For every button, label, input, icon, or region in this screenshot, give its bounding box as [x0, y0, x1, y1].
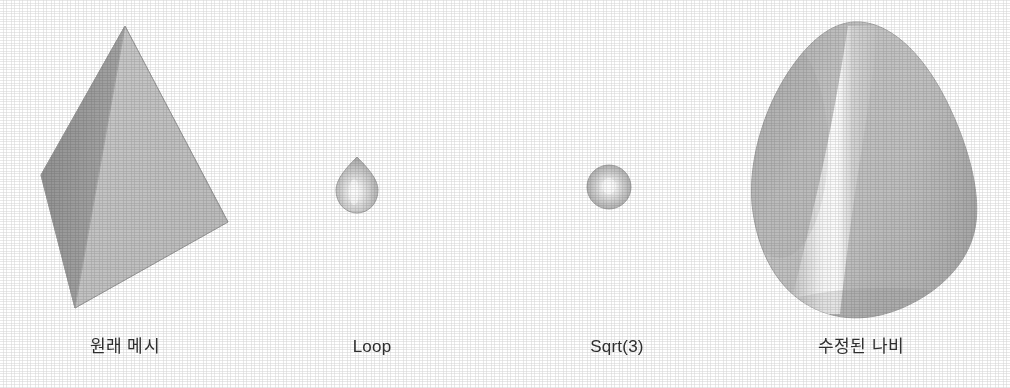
butterfly-mesh	[736, 8, 998, 330]
butterfly-specular-ridge	[788, 26, 878, 314]
butterfly-bottom-shadow	[766, 288, 998, 330]
loop-surface	[336, 157, 378, 213]
tetrahedron-mesh	[18, 8, 248, 328]
caption-sqrt3: Sqrt(3)	[492, 336, 742, 357]
tetrahedron-face-left	[41, 26, 125, 308]
halftone-scan-texture	[0, 0, 1010, 388]
tetrahedron-edge-apex-bottom	[75, 26, 125, 308]
sqrt3-specular-highlight	[602, 178, 616, 194]
caption-loop: Loop	[247, 336, 497, 357]
loop-mesh	[322, 145, 392, 225]
figure-container: 원래 메시 Loop Sqrt(3) 수정된 나비	[0, 0, 1010, 388]
tetrahedron-face-front	[75, 26, 228, 308]
tetrahedron-face-right	[125, 26, 228, 222]
sqrt3-mesh	[576, 152, 642, 222]
loop-specular-highlight	[349, 179, 359, 205]
butterfly-right-shading	[886, 8, 998, 330]
caption-original-mesh: 원래 메시	[0, 336, 250, 357]
caption-modified-butterfly: 수정된 나비	[736, 336, 986, 357]
butterfly-left-shading	[736, 38, 828, 258]
tetrahedron-outline	[41, 26, 228, 308]
sqrt3-surface	[587, 165, 631, 209]
butterfly-surface	[751, 22, 976, 318]
